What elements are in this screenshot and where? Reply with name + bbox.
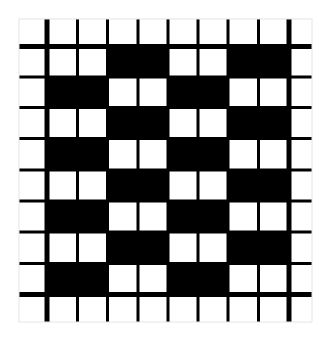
filled-cell: [108, 170, 139, 201]
filled-cell: [47, 139, 78, 171]
empty-cell: [168, 295, 198, 323]
empty-cell: [198, 170, 228, 201]
empty-cell: [289, 108, 312, 139]
empty-cell: [19, 108, 47, 139]
empty-cell: [78, 47, 108, 78]
filled-cell: [78, 264, 108, 295]
empty-cell: [19, 201, 47, 232]
filled-cell: [138, 170, 168, 201]
filled-cell: [228, 47, 259, 78]
empty-cell: [289, 47, 312, 78]
filled-cell: [259, 108, 290, 139]
filled-cell: [198, 264, 228, 295]
empty-cell: [138, 201, 168, 232]
empty-cell: [228, 264, 259, 295]
empty-cell: [138, 295, 168, 323]
empty-cell: [78, 232, 108, 264]
weave-grid-figure: [0, 0, 329, 338]
empty-cell: [289, 19, 312, 47]
filled-cell: [228, 232, 259, 264]
empty-cell: [47, 295, 78, 323]
empty-cell: [108, 139, 139, 171]
empty-cell: [47, 19, 78, 47]
empty-cell: [47, 47, 78, 78]
empty-cell: [19, 295, 47, 323]
filled-cell: [168, 139, 198, 171]
empty-cell: [289, 201, 312, 232]
empty-cell: [228, 77, 259, 108]
empty-cell: [19, 170, 47, 201]
empty-cell: [289, 264, 312, 295]
empty-cell: [19, 47, 47, 78]
empty-cell: [289, 139, 312, 171]
empty-cell: [289, 170, 312, 201]
filled-cell: [47, 201, 78, 232]
empty-cell: [78, 170, 108, 201]
filled-cell: [78, 201, 108, 232]
empty-cell: [47, 170, 78, 201]
filled-cell: [138, 232, 168, 264]
empty-cell: [78, 108, 108, 139]
filled-cell: [78, 139, 108, 171]
filled-cell: [198, 77, 228, 108]
filled-cell: [168, 201, 198, 232]
empty-cell: [259, 201, 290, 232]
empty-cell: [228, 139, 259, 171]
filled-cell: [47, 264, 78, 295]
filled-cell: [198, 139, 228, 171]
filled-cell: [168, 77, 198, 108]
empty-cell: [198, 295, 228, 323]
empty-cell: [108, 19, 139, 47]
filled-cell: [259, 47, 290, 78]
empty-cell: [168, 19, 198, 47]
empty-cell: [168, 170, 198, 201]
empty-cell: [259, 295, 290, 323]
empty-cell: [259, 264, 290, 295]
empty-cell: [198, 232, 228, 264]
empty-cell: [19, 139, 47, 171]
filled-cell: [259, 232, 290, 264]
filled-cell: [108, 47, 139, 78]
filled-cell: [138, 108, 168, 139]
empty-cell: [47, 232, 78, 264]
empty-cell: [138, 77, 168, 108]
empty-cell: [168, 232, 198, 264]
empty-cell: [108, 201, 139, 232]
empty-cell: [78, 295, 108, 323]
filled-cell: [108, 108, 139, 139]
empty-cell: [168, 47, 198, 78]
empty-cell: [228, 19, 259, 47]
empty-cell: [78, 19, 108, 47]
empty-cell: [19, 232, 47, 264]
empty-cell: [108, 295, 139, 323]
filled-cell: [108, 232, 139, 264]
empty-cell: [19, 77, 47, 108]
filled-cell: [47, 77, 78, 108]
empty-cell: [289, 77, 312, 108]
empty-cell: [108, 77, 139, 108]
empty-cell: [47, 108, 78, 139]
empty-cell: [198, 19, 228, 47]
empty-cell: [198, 47, 228, 78]
empty-cell: [289, 295, 312, 323]
empty-cell: [289, 232, 312, 264]
empty-cell: [198, 108, 228, 139]
filled-cell: [78, 77, 108, 108]
filled-cell: [228, 170, 259, 201]
empty-cell: [138, 19, 168, 47]
empty-cell: [138, 264, 168, 295]
empty-cell: [259, 19, 290, 47]
empty-cell: [108, 264, 139, 295]
filled-cell: [259, 170, 290, 201]
empty-cell: [228, 295, 259, 323]
filled-cell: [168, 264, 198, 295]
empty-cell: [259, 139, 290, 171]
empty-cell: [19, 19, 47, 47]
empty-cell: [259, 77, 290, 108]
empty-cell: [19, 264, 47, 295]
empty-cell: [168, 108, 198, 139]
filled-cell: [198, 201, 228, 232]
filled-cell: [228, 108, 259, 139]
empty-cell: [228, 201, 259, 232]
filled-cell: [138, 47, 168, 78]
